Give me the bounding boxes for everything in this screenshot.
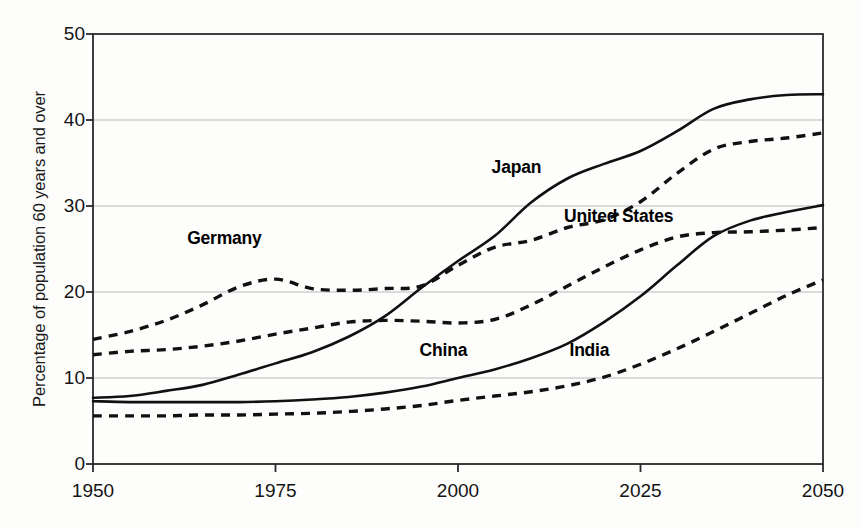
- series-label-china: China: [420, 339, 468, 360]
- population-aging-line-chart: Percentage of population 60 years and ov…: [0, 0, 861, 528]
- series-label-germany: Germany: [187, 227, 261, 248]
- y-tick-label-20: 20: [52, 281, 85, 303]
- x-tick-label-1975: 1975: [254, 480, 296, 502]
- series-label-japan: Japan: [492, 157, 542, 178]
- plot-area-border: [93, 34, 823, 464]
- y-tick-label-10: 10: [52, 367, 85, 389]
- series-label-united-states: United States: [564, 206, 673, 227]
- y-axis-title: Percentage of population 60 years and ov…: [22, 34, 56, 464]
- x-tick-label-2000: 2000: [437, 480, 479, 502]
- y-tick-label-30: 30: [52, 195, 85, 217]
- y-tick-label-40: 40: [52, 109, 85, 131]
- x-tick-label-2050: 2050: [802, 480, 844, 502]
- y-tick-label-50: 50: [52, 23, 85, 45]
- series-label-india: India: [569, 339, 609, 360]
- plot-frame: [93, 34, 823, 464]
- chart-plot-svg: [0, 0, 861, 528]
- series-lines-group: [93, 94, 823, 416]
- axis-ticks-group: [86, 34, 823, 472]
- x-tick-label-1950: 1950: [72, 480, 114, 502]
- y-tick-label-0: 0: [52, 453, 85, 475]
- x-tick-label-2025: 2025: [619, 480, 661, 502]
- chart-page: Percentage of population 60 years and ov…: [0, 0, 861, 528]
